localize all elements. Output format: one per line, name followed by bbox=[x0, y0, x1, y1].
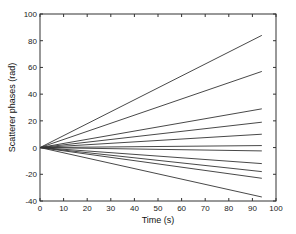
y-axis-ticks: -40-20020406080100 bbox=[24, 10, 276, 206]
x-tick-label: 0 bbox=[38, 204, 43, 213]
x-tick-label: 100 bbox=[269, 204, 283, 213]
y-tick-label: 60 bbox=[28, 63, 37, 72]
y-axis-label: Scatterer phases (rad) bbox=[7, 63, 17, 153]
x-tick-label: 40 bbox=[130, 204, 139, 213]
y-tick-label: 40 bbox=[28, 90, 37, 99]
x-tick-label: 30 bbox=[106, 204, 115, 213]
x-tick-label: 90 bbox=[248, 204, 257, 213]
series-line bbox=[40, 148, 262, 172]
series-line bbox=[40, 148, 262, 197]
x-tick-label: 70 bbox=[201, 204, 210, 213]
y-tick-label: 100 bbox=[24, 10, 38, 19]
y-tick-label: -40 bbox=[25, 197, 37, 206]
series-line bbox=[40, 148, 262, 179]
series-line bbox=[40, 35, 262, 147]
x-tick-label: 10 bbox=[59, 204, 68, 213]
y-tick-label: 80 bbox=[28, 37, 37, 46]
x-axis-ticks: 0102030405060708090100 bbox=[38, 14, 283, 213]
plot-lines bbox=[40, 35, 262, 197]
x-axis-label: Time (s) bbox=[142, 215, 175, 225]
series-line bbox=[40, 109, 262, 148]
y-tick-label: -20 bbox=[25, 170, 37, 179]
x-tick-label: 20 bbox=[83, 204, 92, 213]
series-line bbox=[40, 122, 262, 147]
y-tick-label: 0 bbox=[33, 144, 38, 153]
x-tick-label: 60 bbox=[177, 204, 186, 213]
x-tick-label: 50 bbox=[154, 204, 163, 213]
x-tick-label: 80 bbox=[224, 204, 233, 213]
y-tick-label: 20 bbox=[28, 117, 37, 126]
line-chart: 0102030405060708090100 -40-2002040608010… bbox=[0, 0, 296, 234]
